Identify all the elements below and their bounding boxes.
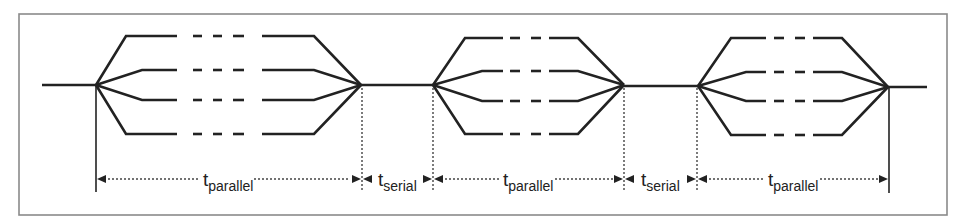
parallel-section-3 [698,38,888,135]
arrow-left-icon [434,175,443,183]
arrow-right-icon [423,175,432,183]
arrow-left-icon [97,175,106,183]
arrow-right-icon [614,175,623,183]
label-t-parallel-3: tparallel [768,169,818,194]
label-t-serial-2: tserial [641,169,680,194]
parallel-section-2 [433,38,624,134]
label-t-parallel-2: tparallel [503,169,553,194]
arrow-left-icon [625,175,634,183]
arrow-left-icon [363,175,372,183]
arrow-right-icon [352,175,361,183]
parallel-serial-diagram: tparallel tserial tparallel tserial tpar… [0,0,967,223]
arrow-left-icon [698,175,707,183]
arrow-right-icon [687,175,696,183]
label-t-serial-1: tserial [378,169,417,194]
arrow-right-icon [879,175,888,183]
label-t-parallel-1: tparallel [203,169,253,194]
parallel-section-1 [96,36,361,134]
serial-baseline [42,85,927,87]
